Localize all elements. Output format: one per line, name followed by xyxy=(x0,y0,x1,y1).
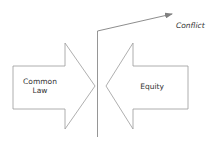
conflict-arrow-line xyxy=(98,14,173,31)
common-law-label-line2: Law xyxy=(22,86,58,95)
equity-label: Equity xyxy=(134,82,170,91)
conflict-label: Conflict xyxy=(176,21,205,30)
common-law-label: Common Law xyxy=(22,77,58,95)
common-law-label-line1: Common xyxy=(22,77,58,86)
